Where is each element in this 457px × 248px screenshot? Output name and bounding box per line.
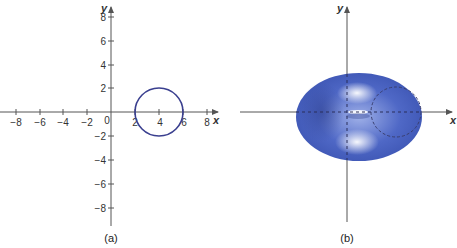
torus-surface — [296, 73, 422, 161]
tick-label: −8 — [95, 203, 107, 214]
tick-label: −8 — [10, 117, 22, 128]
x-axis-label: x — [212, 114, 220, 126]
tick-label: −4 — [57, 117, 69, 128]
tick-label: 8 — [204, 117, 210, 128]
tick-label: −2 — [81, 117, 93, 128]
panel-b: x y (b) — [240, 2, 457, 244]
caption-a: (a) — [104, 232, 117, 244]
tick-label: 2 — [100, 83, 106, 94]
tick-label: −6 — [34, 117, 46, 128]
y-tick-labels: 8 6 4 2 −2 −4 −6 −8 — [95, 12, 107, 214]
caption-b: (b) — [340, 232, 353, 244]
origin-label: 0 — [104, 115, 110, 126]
panel-a: −8 −6 −4 −2 2 4 6 8 0 8 6 4 2 −2 − — [0, 2, 220, 244]
tick-label: 4 — [157, 117, 163, 128]
y-axis-label: y — [100, 2, 108, 14]
tick-label: −6 — [95, 179, 107, 190]
tick-label: −4 — [95, 155, 107, 166]
x-axis-label: x — [449, 114, 457, 126]
tick-label: 6 — [100, 36, 106, 47]
tick-label: 4 — [100, 60, 106, 71]
tick-label: −2 — [95, 131, 107, 142]
y-axis-label: y — [336, 2, 344, 14]
figure: −8 −6 −4 −2 2 4 6 8 0 8 6 4 2 −2 − — [0, 0, 457, 248]
